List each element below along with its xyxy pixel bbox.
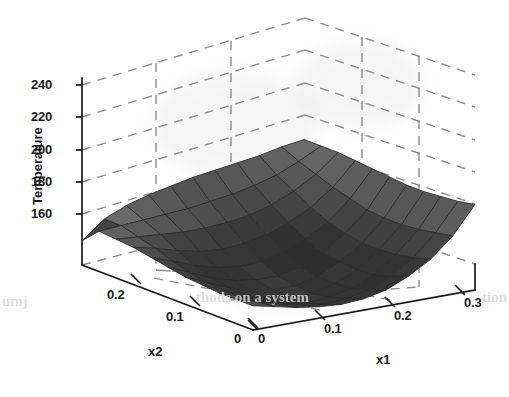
x1-tick-label-0p3: 0.3	[464, 295, 481, 310]
z-tick-label-240: 240	[31, 77, 52, 92]
plot-canvas	[0, 0, 509, 397]
x2-tick-label-0p2: 0.2	[107, 287, 124, 302]
x1-axis-title: x1	[376, 352, 390, 367]
z-axis-ticks	[76, 85, 82, 214]
x1-tick-label-0: 0	[258, 331, 265, 346]
x1-tick-label-0p1: 0.1	[324, 321, 341, 336]
x1-tick-label-0p2: 0.2	[394, 308, 411, 323]
temperature-surface-mesh	[82, 140, 475, 308]
z-tick-label-160: 160	[31, 206, 52, 221]
x2-axis-title: x2	[148, 344, 162, 359]
surface-plot-figure: 240 220 200 180 160 Temperature 0.2 0.1 …	[0, 0, 509, 397]
x2-tick-label-0: 0	[234, 331, 241, 346]
z-tick-label-220: 220	[31, 109, 52, 124]
x2-tick-label-0p1: 0.1	[166, 309, 183, 324]
z-axis-title: Temperature	[30, 127, 45, 205]
